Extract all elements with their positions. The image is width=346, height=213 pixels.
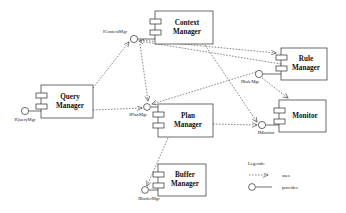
component-rule-manager[interactable]: Rule Manager <box>276 48 327 80</box>
component-context-manager-label-line1: Context <box>175 19 200 27</box>
component-query-manager-label-line1: Query <box>60 93 80 101</box>
imonitor-circle-icon[interactable] <box>258 121 265 128</box>
component-monitor-stub-top <box>274 108 285 113</box>
component-query-manager[interactable]: Query Manager <box>36 85 93 118</box>
edge-irulemgr-to-iplanmgr <box>152 72 256 104</box>
component-buffer-manager[interactable]: Buffer Manager <box>153 164 206 196</box>
ibuffermgr-label: IBufferMgr <box>138 196 160 201</box>
component-plan-manager-label-line1: Plan <box>181 112 195 120</box>
component-plan-manager-label-line2: Manager <box>174 121 203 129</box>
edge-query-to-icontextmgr <box>93 42 129 88</box>
legend-item-provides: provides <box>249 184 298 191</box>
irulemgr-circle-icon[interactable] <box>255 70 262 77</box>
irulemgr-label: IRuleMgr <box>241 79 260 84</box>
interface-icontextmgr[interactable]: IContextMgr <box>103 29 138 43</box>
component-query-manager-stub-bottom <box>36 104 47 109</box>
component-buffer-manager-label-line1: Buffer <box>175 171 196 179</box>
component-plan-manager-stub-top <box>153 112 164 117</box>
component-context-manager-label-line2: Manager <box>173 28 202 36</box>
component-plan-manager[interactable]: Plan Manager <box>153 104 213 137</box>
component-context-manager[interactable]: Context Manager <box>150 11 213 44</box>
interface-irulemgr[interactable]: IRuleMgr <box>241 70 263 84</box>
component-plan-manager-stub-bottom <box>153 123 164 128</box>
component-buffer-manager-label-line2: Manager <box>171 180 200 188</box>
component-rule-manager-label-line2: Manager <box>292 64 321 72</box>
component-buffer-manager-stub-top <box>153 172 164 177</box>
interface-iquerymgr[interactable]: IQueryMgr <box>15 107 36 122</box>
legend-provides-label: provides <box>282 185 298 190</box>
icontextmgr-label: IContextMgr <box>103 29 127 34</box>
component-query-manager-label-line2: Manager <box>56 102 85 110</box>
interface-imonitor[interactable]: IMonitor <box>258 121 275 135</box>
legend-uses-label: uses <box>282 173 290 178</box>
iplanmgr-label: IPlanMgr <box>129 112 147 117</box>
component-monitor-label-line1: Monitor <box>292 112 318 120</box>
component-query-manager-stub-top <box>36 93 47 98</box>
edge-query-to-iplanmgr <box>93 108 142 110</box>
component-context-manager-stub-bottom <box>150 30 161 35</box>
edge-context-to-iplanmgr <box>140 44 148 101</box>
ibuffermgr-circle-icon[interactable] <box>142 187 149 194</box>
legend-provides-circle-icon <box>249 184 256 191</box>
component-diagram-canvas: Query Manager Context Manager Plan Manag… <box>0 0 346 213</box>
interface-ibuffermgr[interactable]: IBufferMgr <box>138 187 160 201</box>
edge-plan-to-imonitor <box>213 124 257 125</box>
imonitor-label: IMonitor <box>258 130 275 135</box>
interface-iplanmgr[interactable]: IPlanMgr <box>129 104 150 117</box>
legend-title: Legends: <box>248 161 265 166</box>
edge-irulemgr-to-monitor <box>262 78 288 98</box>
legend: Legends: uses provides <box>248 161 298 190</box>
component-rule-manager-stub-bottom <box>276 66 287 71</box>
component-buffer-manager-stub-bottom <box>153 183 164 188</box>
iquerymgr-circle-icon[interactable] <box>21 107 28 114</box>
component-context-manager-stub-top <box>150 19 161 24</box>
iquerymgr-label: IQueryMgr <box>15 117 36 122</box>
component-rule-manager-stub-top <box>276 55 287 60</box>
iplanmgr-circle-icon[interactable] <box>144 104 151 111</box>
icontextmgr-circle-icon[interactable] <box>130 35 137 42</box>
component-monitor[interactable]: Monitor <box>274 100 326 132</box>
legend-item-uses: uses <box>249 173 290 178</box>
diagram-svg: Query Manager Context Manager Plan Manag… <box>0 0 346 213</box>
component-rule-manager-label-line1: Rule <box>299 55 313 63</box>
component-monitor-stub-bottom <box>274 119 285 124</box>
